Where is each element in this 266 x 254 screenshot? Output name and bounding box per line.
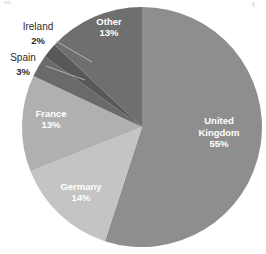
slice-percent-spain: 3% <box>16 66 30 77</box>
slice-label-united-kingdom: United <box>204 115 234 126</box>
slice-percent-united-kingdom: 55% <box>209 138 229 149</box>
slice-label-united-kingdom: Kingdom <box>198 127 239 138</box>
pie-chart-container: UnitedKingdom55%Germany14%France13%Spain… <box>0 0 266 254</box>
slice-percent-ireland: 2% <box>31 35 45 46</box>
slice-percent-france: 13% <box>41 119 61 130</box>
slice-label-ireland: Ireland <box>23 21 54 32</box>
slice-label-spain: Spain <box>10 52 36 63</box>
slice-label-germany: Germany <box>60 181 102 192</box>
slice-label-other: Other <box>96 16 122 27</box>
pie-chart-svg: UnitedKingdom55%Germany14%France13%Spain… <box>0 0 266 254</box>
slice-label-france: France <box>35 108 66 119</box>
slice-percent-germany: 14% <box>71 192 91 203</box>
slice-percent-other: 13% <box>99 27 119 38</box>
